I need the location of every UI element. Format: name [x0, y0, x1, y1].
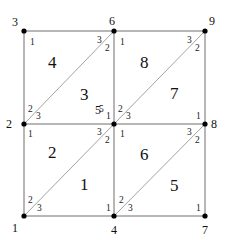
node-3-dot [21, 28, 26, 33]
node-label-2: 2 [6, 117, 12, 131]
local-vertex-label: 5 [99, 104, 104, 114]
element-label-2: 2 [48, 143, 57, 162]
local-vertex-label: 1 [196, 203, 201, 213]
local-vertex-label: 2 [28, 104, 33, 114]
triangular-mesh-diagram: 123456789 12345678 132235113223113223113… [0, 0, 229, 240]
local-vertex-label: 3 [37, 203, 42, 213]
node-label-8: 8 [211, 117, 217, 131]
local-vertex-label: 2 [105, 135, 110, 145]
node-5-dot [111, 121, 116, 126]
local-vertex-label: 3 [128, 203, 133, 213]
node-8-dot [202, 121, 207, 126]
local-vertex-label: 1 [120, 129, 125, 139]
local-vertex-label: 2 [118, 104, 123, 114]
node-label-9: 9 [209, 14, 215, 28]
element-label-5: 5 [170, 176, 179, 195]
element-label-4: 4 [48, 53, 57, 72]
node-4-dot [111, 213, 116, 218]
local-vertex-label: 3 [187, 127, 192, 137]
element-label-3: 3 [80, 85, 89, 104]
local-vertex-label: 1 [120, 37, 125, 47]
local-vertex-label: 3 [187, 35, 192, 45]
local-vertex-label: 2 [119, 195, 124, 205]
local-vertex-label: 3 [97, 35, 102, 45]
node-label-4: 4 [111, 223, 117, 237]
element-label-8: 8 [140, 53, 149, 72]
local-vertex-label: 3 [126, 111, 131, 121]
node-2-dot [21, 121, 26, 126]
node-7-dot [202, 213, 207, 218]
local-vertex-label: 2 [28, 195, 33, 205]
node-9-dot [202, 28, 207, 33]
local-vertex-label: 3 [36, 111, 41, 121]
local-vertex-label: 1 [106, 203, 111, 213]
node-6-dot [111, 28, 116, 33]
local-vertex-label: 1 [106, 111, 111, 121]
node-1-dot [21, 213, 26, 218]
node-label-7: 7 [202, 223, 208, 237]
node-label-6: 6 [109, 14, 115, 28]
local-vertex-label: 1 [196, 111, 201, 121]
local-vertex-label: 1 [30, 37, 35, 47]
element-label-1: 1 [80, 175, 89, 194]
local-vertex-label: 1 [28, 129, 33, 139]
local-vertex-label: 2 [105, 43, 110, 53]
node-label-3: 3 [12, 15, 18, 29]
local-vertex-label: 2 [195, 135, 200, 145]
local-vertex-label: 3 [97, 127, 102, 137]
node-label-1: 1 [12, 221, 18, 235]
local-vertex-label: 2 [195, 43, 200, 53]
element-label-6: 6 [140, 145, 149, 164]
element-label-7: 7 [170, 84, 179, 103]
